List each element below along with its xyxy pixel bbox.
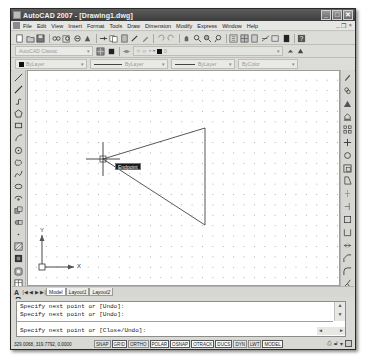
polar-toggle[interactable]: POLAR bbox=[150, 340, 170, 348]
make-block-icon[interactable] bbox=[14, 218, 24, 227]
stretch-icon[interactable] bbox=[343, 176, 353, 186]
point-icon[interactable] bbox=[14, 230, 24, 239]
insert-block-icon[interactable] bbox=[14, 206, 24, 215]
menu-format[interactable]: Format bbox=[87, 23, 104, 29]
arc-icon[interactable] bbox=[14, 133, 24, 142]
drawing-canvas[interactable] bbox=[28, 71, 340, 286]
plot-icon[interactable] bbox=[52, 34, 61, 43]
quickcalc-icon[interactable] bbox=[282, 34, 291, 43]
lock-toolbar-icon[interactable]: 🔓︎ bbox=[334, 340, 338, 347]
pan-icon[interactable] bbox=[182, 34, 191, 43]
hatch-icon[interactable] bbox=[14, 242, 24, 251]
doc-minimize-button[interactable]: _ bbox=[336, 22, 339, 29]
plot-layer-icon[interactable]: ◓ bbox=[152, 48, 156, 54]
plotstyle-control-dropdown[interactable]: ByColor ▾ bbox=[238, 59, 298, 69]
array-icon[interactable] bbox=[343, 125, 353, 135]
doc-close-button[interactable]: × bbox=[348, 22, 352, 29]
workspace-settings-icon[interactable] bbox=[96, 47, 105, 56]
lock-icon[interactable]: ◔ bbox=[148, 48, 152, 54]
rectangle-icon[interactable] bbox=[14, 121, 24, 130]
scroll-right-icon[interactable]: ▶ bbox=[340, 327, 343, 335]
menu-help[interactable]: Help bbox=[247, 23, 258, 29]
autocad-app-icon[interactable] bbox=[13, 11, 21, 19]
zoom-previous-icon[interactable] bbox=[214, 34, 223, 43]
chamfer-icon[interactable] bbox=[343, 253, 353, 263]
block-editor-icon[interactable] bbox=[141, 34, 150, 43]
scroll-up-icon[interactable]: ▲ bbox=[335, 302, 345, 311]
zoom-realtime-icon[interactable] bbox=[193, 34, 202, 43]
copy-object-icon[interactable] bbox=[343, 86, 353, 96]
help-icon[interactable]: ? bbox=[297, 34, 306, 43]
color-control-dropdown[interactable]: ByLayer ▾ bbox=[15, 59, 87, 69]
line-icon[interactable] bbox=[14, 73, 24, 82]
lwt-toggle[interactable]: LWT bbox=[248, 340, 261, 348]
layer-properties-icon[interactable] bbox=[122, 47, 131, 56]
scroll-down-icon[interactable]: ▼ bbox=[335, 311, 345, 320]
tool-palettes-icon[interactable] bbox=[250, 34, 259, 43]
menu-window[interactable]: Window bbox=[222, 23, 242, 29]
dyn-toggle[interactable]: DYN bbox=[233, 340, 247, 348]
linetype-control-dropdown[interactable]: ByLayer ▾ bbox=[90, 59, 168, 69]
rotate-icon[interactable] bbox=[343, 150, 353, 160]
menu-tools[interactable]: Tools bbox=[109, 23, 122, 29]
tab-layout2[interactable]: Layout2 bbox=[89, 288, 113, 296]
menu-view[interactable]: View bbox=[51, 23, 63, 29]
minimize-button[interactable]: _ bbox=[321, 10, 331, 20]
close-button[interactable]: ✕ bbox=[343, 10, 353, 20]
model-toggle[interactable]: MODEL bbox=[262, 340, 282, 348]
save-icon[interactable] bbox=[36, 34, 45, 43]
layer-previous-icon[interactable] bbox=[296, 47, 305, 56]
gradient-icon[interactable] bbox=[14, 254, 24, 263]
design-center-icon[interactable] bbox=[240, 34, 249, 43]
ortho-toggle[interactable]: ORTHO bbox=[128, 340, 149, 348]
document-icon[interactable] bbox=[13, 22, 20, 29]
paste-icon[interactable] bbox=[120, 34, 129, 43]
menu-express[interactable]: Express bbox=[197, 23, 217, 29]
cut-icon[interactable] bbox=[99, 34, 108, 43]
doc-restore-button[interactable]: ❐ bbox=[341, 22, 346, 29]
join-icon[interactable] bbox=[343, 240, 353, 250]
undo-icon[interactable] bbox=[156, 34, 165, 43]
properties-icon[interactable] bbox=[229, 34, 238, 43]
3d-dwf-icon[interactable] bbox=[83, 34, 92, 43]
construction-line-icon[interactable] bbox=[14, 85, 24, 94]
cursor-coordinates[interactable]: 329.0068, 319.7792, 0.0000 bbox=[14, 342, 84, 347]
break-icon[interactable] bbox=[343, 228, 353, 238]
my-workspace-icon[interactable] bbox=[107, 47, 116, 56]
open-icon[interactable] bbox=[26, 34, 35, 43]
communication-center-icon[interactable]: ⎙ bbox=[327, 340, 332, 347]
command-history-scrollbar[interactable]: ▲ ▼ bbox=[334, 302, 345, 321]
revision-cloud-icon[interactable] bbox=[14, 158, 24, 167]
make-layer-current-icon[interactable] bbox=[286, 47, 295, 56]
menu-draw[interactable]: Draw bbox=[127, 23, 140, 29]
ellipse-arc-icon[interactable] bbox=[14, 194, 24, 203]
menu-dimension[interactable]: Dimension bbox=[145, 23, 171, 29]
snap-toggle[interactable]: SNAP bbox=[94, 340, 111, 348]
plot-preview-icon[interactable] bbox=[62, 34, 71, 43]
drawn-polyline[interactable] bbox=[103, 128, 205, 225]
maximize-button[interactable]: □ bbox=[332, 10, 342, 20]
lightbulb-icon[interactable]: ○ bbox=[137, 48, 141, 54]
markup-icon[interactable] bbox=[271, 34, 280, 43]
ellipse-icon[interactable] bbox=[14, 182, 24, 191]
new-icon[interactable] bbox=[15, 34, 24, 43]
menu-file[interactable]: File bbox=[23, 23, 32, 29]
command-prompt[interactable]: Specify next point or [Close/Undo]: bbox=[20, 327, 146, 335]
grid-toggle[interactable]: GRID bbox=[112, 340, 127, 348]
extend-icon[interactable] bbox=[343, 202, 353, 212]
spline-icon[interactable] bbox=[14, 170, 24, 179]
break-at-point-icon[interactable] bbox=[343, 215, 353, 225]
scale-icon[interactable] bbox=[343, 163, 353, 173]
layer-dropdown[interactable]: ○ ☼ ◔ ◓ 0 ▾ bbox=[133, 46, 283, 56]
tray-menu-icon[interactable]: ▾ bbox=[340, 340, 343, 347]
ducs-toggle[interactable]: DUCS bbox=[215, 340, 232, 348]
region-icon[interactable] bbox=[14, 267, 24, 276]
lineweight-control-dropdown[interactable]: ByLayer ▾ bbox=[171, 59, 235, 69]
mirror-icon[interactable] bbox=[343, 99, 353, 109]
drawing-area[interactable]: Y X Endpoint bbox=[27, 70, 340, 286]
move-icon[interactable] bbox=[343, 137, 353, 147]
scroll-left-icon[interactable]: ◀ bbox=[319, 327, 322, 335]
polygon-icon[interactable] bbox=[14, 109, 24, 118]
tab-model[interactable]: Model bbox=[46, 288, 66, 296]
circle-icon[interactable] bbox=[14, 146, 24, 155]
